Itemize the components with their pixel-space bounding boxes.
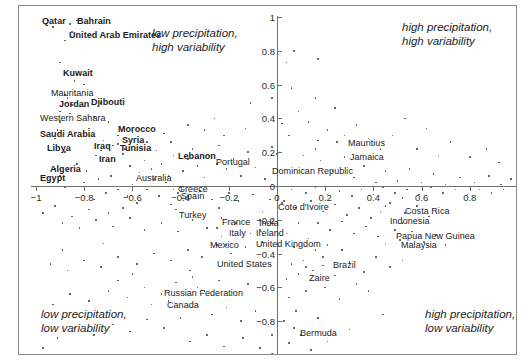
scatter-plot-figure: normalized variability index −1−0.8−0.6−… <box>0 0 530 360</box>
scatter-point <box>122 153 124 155</box>
scatter-point <box>175 209 177 211</box>
scatter-point <box>380 211 382 213</box>
point-label: Costa Rica <box>405 206 450 216</box>
x-tick-mark <box>36 187 37 191</box>
scatter-point <box>315 249 317 251</box>
scatter-point <box>98 178 100 180</box>
x-tick-mark <box>373 187 374 191</box>
annotation-bottom-left: low precipitation, low variability <box>41 307 127 336</box>
scatter-point <box>375 256 377 258</box>
scatter-point <box>83 84 85 86</box>
scatter-point <box>151 304 153 306</box>
scatter-point <box>163 133 165 135</box>
scatter-point <box>146 319 148 321</box>
point-label: Indonesia <box>390 216 429 226</box>
scatter-point <box>201 256 203 258</box>
scatter-point <box>182 170 184 172</box>
scatter-point <box>127 297 129 299</box>
scatter-point <box>317 222 319 224</box>
scatter-point <box>404 118 406 120</box>
scatter-point <box>252 194 254 196</box>
annotation-top-left-line2: high variability <box>152 40 238 54</box>
scatter-point <box>59 62 61 64</box>
point-label: India <box>259 218 279 228</box>
scatter-point <box>223 346 225 348</box>
scatter-point <box>474 182 476 184</box>
scatter-point-labeled <box>317 140 319 142</box>
scatter-point <box>385 170 387 172</box>
scatter-point <box>228 192 230 194</box>
scatter-point-labeled <box>385 205 387 207</box>
scatter-point <box>358 207 360 209</box>
scatter-point <box>363 271 365 273</box>
scatter-point <box>500 184 502 186</box>
scatter-point <box>240 175 242 177</box>
scatter-point <box>291 189 293 191</box>
point-label: United Kingdom <box>256 239 321 249</box>
scatter-point <box>361 189 363 191</box>
scatter-point <box>64 187 66 189</box>
x-tick-label: 0.6 <box>415 192 428 203</box>
point-label: Dominican Republic <box>272 166 353 176</box>
scatter-point-labeled <box>117 143 119 145</box>
scatter-point <box>255 167 257 169</box>
scatter-point <box>192 148 194 150</box>
scatter-point <box>42 212 44 214</box>
y-tick-mark <box>278 287 282 288</box>
scatter-point-labeled <box>170 204 172 206</box>
y-tick-label: 0.2 <box>251 147 275 158</box>
scatter-point <box>187 249 189 251</box>
scatter-point <box>450 141 452 143</box>
scatter-point <box>108 212 110 214</box>
scatter-point <box>469 156 471 158</box>
annotation-bottom-right-line2: low variability <box>425 321 515 335</box>
scatter-point <box>245 128 247 130</box>
scatter-point <box>394 192 396 194</box>
point-label: Russian Federation <box>164 288 243 298</box>
scatter-point <box>108 121 110 123</box>
scatter-point <box>455 189 457 191</box>
scatter-point <box>223 135 225 137</box>
y-tick-mark <box>278 17 282 18</box>
scatter-point <box>129 165 131 167</box>
scatter-point <box>406 189 408 191</box>
scatter-point-labeled <box>216 227 218 229</box>
scatter-point <box>175 282 177 284</box>
point-label: Tunisia <box>120 143 151 153</box>
scatter-point <box>83 260 85 262</box>
scatter-point <box>303 260 305 262</box>
scatter-point <box>100 266 102 268</box>
scatter-point <box>67 270 69 272</box>
y-tick-label: −0.4 <box>251 248 275 259</box>
point-label: Egypt <box>40 173 65 183</box>
scatter-point <box>95 155 97 157</box>
point-label: Qatar <box>42 16 66 26</box>
annotation-top-right: high precipitation, high variability <box>402 20 492 49</box>
annotation-top-left-line1: low precipitation, <box>152 26 238 40</box>
scatter-point <box>117 189 119 191</box>
point-label: Mauritius <box>348 138 385 148</box>
annotation-top-right-line1: high precipitation, <box>402 20 492 34</box>
scatter-point <box>250 233 252 235</box>
scatter-point <box>170 260 172 262</box>
scatter-point <box>291 263 293 265</box>
scatter-point <box>117 256 119 258</box>
x-tick-mark <box>325 187 326 191</box>
scatter-point <box>105 192 107 194</box>
scatter-point <box>189 270 191 272</box>
scatter-point <box>491 192 493 194</box>
scatter-point <box>218 280 220 282</box>
scatter-point <box>433 173 435 175</box>
scatter-point <box>189 341 191 343</box>
scatter-point <box>57 337 59 339</box>
scatter-point <box>503 189 505 191</box>
scatter-point <box>69 293 71 295</box>
x-tick-mark <box>84 187 85 191</box>
scatter-point <box>295 310 297 312</box>
scatter-point <box>283 320 285 322</box>
y-axis-line <box>277 16 278 354</box>
scatter-point <box>426 128 428 130</box>
y-tick-label: 1 <box>251 12 275 23</box>
scatter-point <box>221 236 223 238</box>
annotation-bottom-right-line1: high precipitation, <box>425 307 515 321</box>
